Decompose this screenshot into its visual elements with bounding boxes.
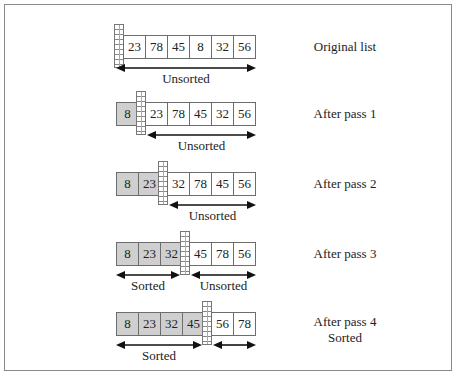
pass-label: After pass 3 [290,246,400,262]
unsorted-label: Unsorted [147,138,256,154]
sorted-label: Sorted [116,348,202,364]
list-cell-unsorted: 56 [233,242,256,266]
pass-label: After pass 2 [290,176,400,192]
pass-label: After pass 4Sorted [290,314,400,346]
pass-row: 82332784556 UnsortedAfter pass 2 [0,161,457,231]
list-cell-unsorted: 56 [233,172,256,196]
list-cell-unsorted: 78 [211,242,234,266]
list-cell-sorted: 32 [160,312,183,336]
list-cell-unsorted: 78 [189,172,212,196]
list-cell-unsorted: 45 [189,242,212,266]
list-cell-unsorted: 56 [233,35,256,59]
list-cell-unsorted: 45 [211,172,234,196]
list-cell-unsorted: 56 [233,102,256,126]
unsorted-range-arrow-icon [213,340,256,350]
list-cell-sorted: 8 [116,312,139,336]
pass-label: Original list [290,39,400,55]
pass-label-line: After pass 3 [290,246,400,262]
list-cell-unsorted: 32 [211,35,234,59]
unsorted-label: Unsorted [169,208,256,224]
pass-row: 82332457856 Sorted UnsortedAfter pass 3 [0,231,457,301]
list-cell-unsorted: 56 [211,312,234,336]
list-cell-unsorted: 78 [233,312,256,336]
pass-row: 82378453256 UnsortedAfter pass 1 [0,91,457,161]
pass-row: 82332455678 Sorted After pass 4Sorted [0,301,457,371]
pass-label-line: Original list [290,39,400,55]
list-cell-sorted: 8 [116,242,139,266]
list-cell-unsorted: 78 [145,35,168,59]
list-cell-unsorted: 32 [167,172,190,196]
list-cell-unsorted: 8 [189,35,212,59]
pass-label-line: After pass 1 [290,106,400,122]
pass-label-line: After pass 4 [290,314,400,330]
pass-label: After pass 1 [290,106,400,122]
pass-label-line: After pass 2 [290,176,400,192]
list-cell-sorted: 23 [138,242,161,266]
sorted-label: Sorted [116,278,180,294]
list-cell-unsorted: 78 [167,102,190,126]
list-cell-unsorted: 45 [167,35,190,59]
list-cell-sorted: 8 [116,172,139,196]
list-cell-unsorted: 45 [189,102,212,126]
list-cell-unsorted: 23 [123,35,146,59]
list-cell-unsorted: 23 [145,102,168,126]
list-cell-unsorted: 32 [211,102,234,126]
unsorted-label: Unsorted [116,71,256,87]
pass-label-sublabel: Sorted [290,330,400,346]
pass-row: 23784583256 UnsortedOriginal list [0,24,457,94]
list-cell-sorted: 23 [138,312,161,336]
unsorted-label: Unsorted [191,278,256,294]
